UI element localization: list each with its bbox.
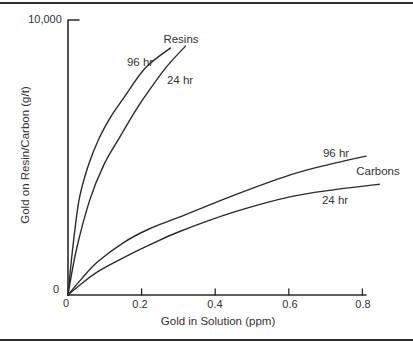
carbons-96hr-curve-label: 96 hr <box>323 147 349 159</box>
resins-96hr-curve-label: 96 hr <box>127 56 153 68</box>
x-tick-label-0_2: 0.2 <box>132 298 147 310</box>
x-axis-title: Gold in Solution (ppm) <box>161 315 275 327</box>
y-axis-title: Gold on Resin/Carbon (g/t) <box>19 86 31 223</box>
plot-svg <box>0 0 413 347</box>
curve-carbons-96hr <box>68 156 366 295</box>
figure: Gold on Resin/Carbon (g/t) Gold in Solut… <box>0 0 413 347</box>
bottom-rule <box>0 339 413 341</box>
y-tick-label-10000: 10,000 <box>28 13 62 25</box>
x-tick-label-0_8: 0.8 <box>355 298 370 310</box>
resins-24hr-curve-label: 24 hr <box>167 74 193 86</box>
resins-group-label: Resins <box>163 33 198 45</box>
x-tick-label-0_4: 0.4 <box>207 298 222 310</box>
y-tick-label-0: 0 <box>53 283 59 295</box>
carbons-24hr-curve-label: 24 hr <box>322 194 348 206</box>
carbons-group-label: Carbons <box>356 165 399 177</box>
axes <box>68 20 366 295</box>
x-tick-label-0_6: 0.6 <box>282 298 297 310</box>
curve-resins-96hr <box>68 48 170 295</box>
x-tick-label-0: 0 <box>63 297 69 309</box>
